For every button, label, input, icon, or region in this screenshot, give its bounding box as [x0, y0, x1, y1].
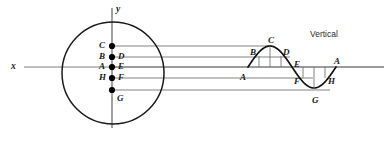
wave-point-label-A-8: A — [334, 57, 340, 66]
wave-point-label-G-6: G — [312, 96, 319, 105]
circle-point-label-D: D — [118, 52, 125, 61]
circle-point-label-H: H — [99, 73, 106, 82]
circle-point-dot-A — [109, 64, 115, 70]
circle-point-label-G: G — [117, 94, 124, 103]
circle-point-label-E: E — [118, 62, 124, 71]
y-axis-label: y — [116, 5, 120, 15]
phasor-circle — [62, 22, 164, 124]
circle-point-dot-B — [109, 54, 115, 60]
circle-point-label-B: B — [99, 52, 105, 61]
circle-point-label-A: A — [99, 62, 105, 71]
wave-point-label-B-1: B — [250, 48, 256, 57]
circle-point-dot-C — [109, 43, 115, 49]
vertical-caption: Vertical — [310, 30, 338, 39]
x-axis-label: x — [11, 62, 16, 72]
wave-point-label-D-3: D — [283, 48, 290, 57]
wave-point-label-E-4: E — [294, 60, 300, 69]
wave-point-label-F-5: F — [294, 77, 300, 86]
diagram-canvas — [0, 0, 384, 153]
circle-point-dot-H — [109, 75, 115, 81]
wave-point-label-A-0: A — [240, 73, 246, 82]
circle-point-dot-G — [109, 87, 115, 93]
projection-lines-group — [112, 46, 384, 90]
circle-point-label-C: C — [99, 41, 105, 50]
phasor-to-sine-wave-diagram: CBDAEHFGABCDEFGHA y x Vertical — [0, 0, 384, 153]
circle-point-label-F: F — [118, 73, 124, 82]
wave-point-label-C-2: C — [268, 36, 274, 45]
wave-point-label-H-7: H — [328, 77, 335, 86]
